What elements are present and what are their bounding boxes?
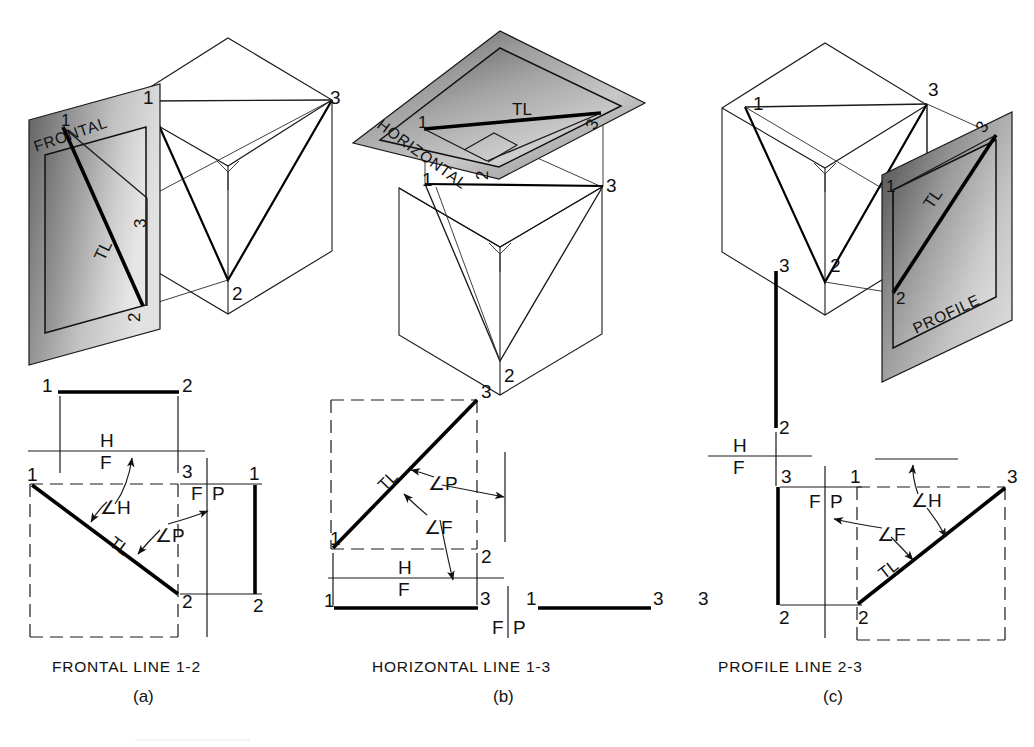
panel-b-caption: HORIZONTAL LINE 1-3 xyxy=(372,658,551,675)
a-ref-h-label: H xyxy=(100,430,114,451)
pictorial-c-vertex-1: 1 xyxy=(753,93,764,114)
c-ref-p-label: P xyxy=(830,491,843,512)
a-side-label-2: 2 xyxy=(253,595,264,616)
b-front-label-1: 1 xyxy=(324,590,335,611)
a-angle-p-label: ∠P xyxy=(155,525,185,546)
a-front-label-1: 1 xyxy=(27,464,38,485)
b-ref-p-label: P xyxy=(513,617,526,638)
pictorial-a-proj-vertex-3: 3 xyxy=(131,219,150,228)
b-angle-f-label: ∠F xyxy=(424,517,453,538)
pictorial-c-proj-vertex-2: 2 xyxy=(896,289,905,308)
b-ref-f-label: F xyxy=(398,579,410,600)
panel-c-caption: PROFILE LINE 2-3 xyxy=(718,658,863,675)
pictorial-a-proj-vertex-2: 2 xyxy=(125,313,144,322)
c-ref-f2-label: F xyxy=(809,491,821,512)
c-front-label-3: 3 xyxy=(781,466,792,487)
b-angle-p-label: ∠P xyxy=(428,473,458,494)
pictorial-c-vertex-2: 2 xyxy=(830,255,841,276)
c-ref-f-label: F xyxy=(733,457,745,478)
c-ref-h-label: H xyxy=(733,435,747,456)
pictorial-a-vertex-2: 2 xyxy=(232,283,243,304)
c-side-label-2: 2 xyxy=(858,607,869,628)
b-top-label-3: 3 xyxy=(481,381,492,402)
panel-b-letter: (b) xyxy=(493,687,514,706)
a-angle-h-label: ∠H xyxy=(100,497,131,518)
pictorial-b-proj-vertex-2: 2 xyxy=(473,171,492,180)
b-ref-h-label: H xyxy=(398,557,412,578)
b-front-label-3: 3 xyxy=(480,588,491,609)
c-angle-h-label: ∠H xyxy=(911,490,942,511)
pictorial-b-tl-label: TL xyxy=(512,100,532,119)
pictorial-c-vertex-3: 3 xyxy=(928,79,939,100)
a-ref-p-label: P xyxy=(212,483,225,504)
c-left-label-3: 3 xyxy=(698,588,709,609)
c-top-label-2: 2 xyxy=(779,417,790,438)
a-side-label-1: 1 xyxy=(249,463,260,484)
pictorial-b-vertex-3: 3 xyxy=(606,175,617,196)
technical-drawing-figure: 1 2 3 1 2 3 TL FRONTAL xyxy=(0,0,1034,747)
c-front-label-2: 2 xyxy=(779,607,790,628)
a-top-label-1: 1 xyxy=(42,375,53,396)
pictorial-a-vertex-1: 1 xyxy=(143,87,154,108)
b-side-label-3: 3 xyxy=(653,588,664,609)
c-top-label-3: 3 xyxy=(779,255,790,276)
a-top-label-2: 2 xyxy=(182,375,193,396)
pictorial-c-proj-vertex-1: 1 xyxy=(886,177,895,196)
b-top-label-1: 1 xyxy=(330,528,341,549)
b-top-label-2: 2 xyxy=(481,546,492,567)
a-front-label-3: 3 xyxy=(182,461,193,482)
c-side-label-1: 1 xyxy=(850,466,861,487)
c-side-label-3: 3 xyxy=(1007,466,1018,487)
b-ref-f2-label: F xyxy=(492,617,504,638)
b-side-label-1: 1 xyxy=(526,588,537,609)
pictorial-b-proj-vertex-1: 1 xyxy=(418,113,427,132)
a-ref-f-label: F xyxy=(100,452,112,473)
panel-a-letter: (a) xyxy=(133,687,154,706)
pictorial-b-vertex-2: 2 xyxy=(504,365,515,386)
a-ref-f2-label: F xyxy=(191,483,203,504)
pictorial-a-vertex-3: 3 xyxy=(330,87,341,108)
panel-a-caption: FRONTAL LINE 1-2 xyxy=(52,658,201,675)
panel-c-letter: (c) xyxy=(823,687,843,706)
c-angle-f-label: ∠F xyxy=(877,524,906,545)
pictorial-b-vertex-1: 1 xyxy=(422,169,433,190)
